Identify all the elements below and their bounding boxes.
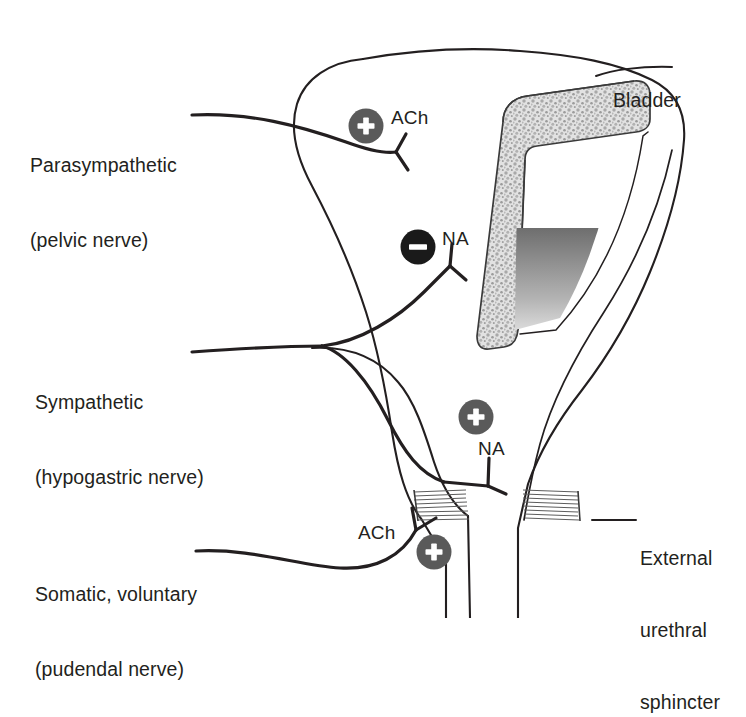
bladder-inner-right-fold — [524, 150, 672, 520]
somatic-label: Somatic, voluntary (pudendal nerve) — [35, 532, 197, 717]
neurotransmitter-label-na-mid: NA — [442, 228, 469, 250]
neurotransmitter-label-ach-bottom: ACh — [358, 522, 396, 544]
sympathetic-label-line2: (hypogastric nerve) — [35, 465, 204, 490]
neurotransmitter-label-ach-top: ACh — [391, 107, 429, 129]
minus-badge-na-mid — [401, 230, 436, 265]
sphincter-label-line1: External — [640, 546, 720, 570]
sphincter-band-right — [523, 490, 580, 521]
neurotransmitter-label-na-low: NA — [478, 438, 505, 460]
pelvic-nerve-terminal-lower — [396, 152, 408, 170]
pelvic-nerve-terminal-upper — [396, 134, 406, 152]
hypogastric-terminal-upper-b — [450, 266, 466, 280]
urethra-inner-left — [468, 516, 470, 618]
sympathetic-label: Sympathetic (hypogastric nerve) — [35, 340, 204, 540]
hypogastric-terminal-lower-a — [488, 458, 489, 486]
sphincter-band-left — [414, 490, 469, 521]
plus-badge-na-low — [459, 400, 494, 435]
plus-badge-ach-top — [349, 109, 384, 144]
external-urethral-sphincter-label: External urethral sphincter — [640, 498, 720, 717]
sympathetic-label-line1: Sympathetic — [35, 390, 204, 415]
nerve-group — [192, 115, 506, 569]
sphincter-label-line3: sphincter — [640, 690, 720, 714]
bladder-label: Bladder — [613, 38, 681, 163]
plus-badge-ach-bottom — [417, 535, 452, 570]
hypogastric-nerve — [192, 244, 506, 494]
parasympathetic-label: Parasympathetic (pelvic nerve) — [30, 103, 177, 303]
hypogastric-terminal-lower-b — [488, 486, 506, 494]
parasympathetic-label-line2: (pelvic nerve) — [30, 228, 177, 253]
pudendal-nerve — [196, 508, 436, 568]
sphincter-label-line2: urethral — [640, 618, 720, 642]
somatic-label-line2: (pudendal nerve) — [35, 657, 197, 682]
hypogastric-lower-run — [444, 482, 488, 486]
parasympathetic-label-line1: Parasympathetic — [30, 153, 177, 178]
bladder-label-text: Bladder — [613, 88, 681, 113]
somatic-label-line1: Somatic, voluntary — [35, 582, 197, 607]
